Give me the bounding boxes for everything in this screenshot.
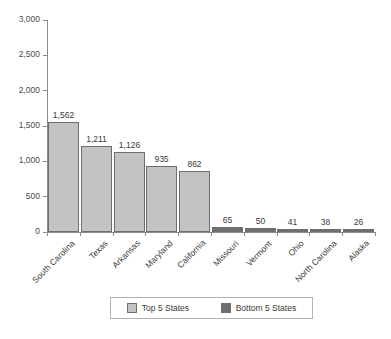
legend-label-bottom5: Bottom 5 States [236, 304, 296, 313]
bar-value-label: 1,562 [39, 111, 88, 120]
bar-top5[interactable] [81, 146, 112, 232]
bar-bottom5[interactable] [212, 227, 243, 232]
legend-entry-top5[interactable]: Top 5 States [127, 303, 189, 313]
x-tick-mark [375, 232, 376, 236]
legend-entry-bottom5[interactable]: Bottom 5 States [221, 303, 296, 313]
legend-label-top5: Top 5 States [142, 304, 189, 313]
bar-chart: 05001,0001,5002,0002,5003,000 1,5621,211… [0, 0, 391, 339]
x-tick-mark [309, 232, 310, 236]
bar-bottom5[interactable] [310, 229, 341, 232]
x-tick-mark [244, 232, 245, 236]
x-tick-mark [211, 232, 212, 236]
bars-layer: 1,5621,2111,1269358626550413826 [0, 0, 391, 339]
legend-swatch-bottom5 [221, 303, 231, 313]
bar-bottom5[interactable] [245, 228, 276, 232]
bar-value-label: 26 [334, 218, 383, 227]
x-tick-mark [342, 232, 343, 236]
bar-bottom5[interactable] [343, 229, 374, 232]
chart-legend: Top 5 States Bottom 5 States [110, 297, 313, 319]
bar-bottom5[interactable] [277, 229, 308, 232]
bar-value-label: 862 [170, 160, 219, 169]
bar-top5[interactable] [114, 152, 145, 232]
x-tick-mark [145, 232, 146, 236]
bar-top5[interactable] [146, 166, 177, 232]
x-tick-mark [113, 232, 114, 236]
x-tick-mark [178, 232, 179, 236]
legend-swatch-top5 [127, 303, 137, 313]
x-tick-mark [47, 232, 48, 236]
x-tick-mark [80, 232, 81, 236]
bar-value-label: 1,126 [105, 141, 154, 150]
x-tick-mark [277, 232, 278, 236]
